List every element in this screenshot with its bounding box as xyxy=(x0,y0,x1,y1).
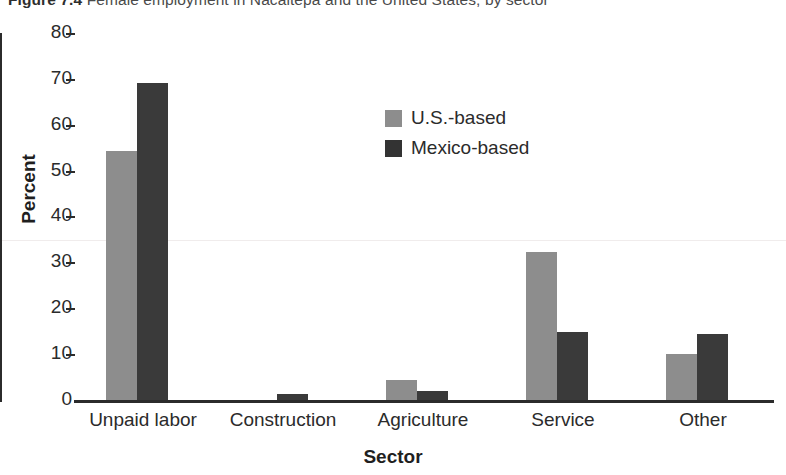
y-tick-label-80: 80 xyxy=(12,22,72,41)
bars-layer xyxy=(74,33,774,400)
x-category-label-other: Other xyxy=(633,409,773,431)
figure-caption-label: Figure 7.4 xyxy=(8,0,82,8)
bar-mx-agriculture xyxy=(417,391,448,400)
bar-us-unpaid-labor xyxy=(106,151,137,400)
x-category-label-construction: Construction xyxy=(213,409,353,431)
bar-mx-other xyxy=(697,334,728,400)
y-axis-line xyxy=(0,33,2,402)
y-tick-label-10: 10 xyxy=(12,343,72,362)
x-category-label-service: Service xyxy=(493,409,633,431)
y-tick-label-0: 0 xyxy=(12,389,72,408)
bar-mx-construction xyxy=(277,394,308,400)
x-axis-line xyxy=(74,400,774,403)
figure-caption-text: Female employment in Nacaltepa and the U… xyxy=(87,0,549,8)
bar-mx-service xyxy=(557,332,588,400)
legend-label-mexico-based: Mexico-based xyxy=(411,137,529,159)
figure-caption: Figure 7.4 Female employment in Nacaltep… xyxy=(8,0,778,11)
y-tick-label-30: 30 xyxy=(12,251,72,270)
bar-mx-unpaid-labor xyxy=(137,83,168,400)
bar-us-agriculture xyxy=(386,380,417,400)
legend-item-us-based: U.S.-based xyxy=(385,103,529,133)
legend-swatch-us-icon xyxy=(385,110,402,127)
y-axis-label: Percent xyxy=(18,129,40,249)
legend: U.S.-based Mexico-based xyxy=(385,103,529,163)
x-category-label-unpaid-labor: Unpaid labor xyxy=(73,409,213,431)
bar-us-other xyxy=(666,354,697,400)
x-category-label-agriculture: Agriculture xyxy=(353,409,493,431)
legend-swatch-mx-icon xyxy=(385,140,402,157)
x-axis-label: Sector xyxy=(0,446,786,468)
y-tick-label-20: 20 xyxy=(12,297,72,316)
legend-label-us-based: U.S.-based xyxy=(411,107,506,129)
y-tick-label-70: 70 xyxy=(12,68,72,87)
legend-item-mexico-based: Mexico-based xyxy=(385,133,529,163)
chart-figure: Figure 7.4 Female employment in Nacaltep… xyxy=(0,0,786,475)
bar-us-service xyxy=(526,252,557,400)
